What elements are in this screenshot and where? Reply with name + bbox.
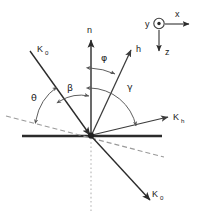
transmitted-wavevector-arrow [92,137,150,200]
label-angle-gamma: γ [127,81,133,92]
coordinate-inset [154,18,189,51]
label-incident-wavevector-subscript: 0 [45,49,49,56]
label-angle-phi: φ [101,52,107,63]
label-angle-theta: θ [31,92,37,103]
diffraction-geometry-figure: n K 0 K 0 K h h θ β φ γ x y z [0,0,202,218]
angle-arc-gamma [90,88,136,126]
label-x-axis: x [175,9,180,19]
origin-point [88,132,94,138]
angle-arc-phi [90,68,115,74]
label-incident-wavevector: K [37,44,43,54]
angle-arc-theta [36,87,57,120]
label-transmitted-wavevector-subscript: 0 [160,194,164,201]
label-transmitted-wavevector: K [152,189,158,199]
label-reciprocal-lattice-vector: h [136,44,141,54]
diagram-canvas: n K 0 K 0 K h h θ β φ γ x y z [0,0,202,218]
label-angle-beta: β [67,82,73,93]
diffracted-wavevector-arrow [92,117,168,135]
reciprocal-lattice-vector-arrow [92,50,131,134]
label-diffracted-wavevector: K [173,112,179,122]
incident-wavevector-arrow [30,51,90,135]
y-axis-out-of-page-dot [157,22,160,25]
label-y-axis: y [145,19,150,29]
label-diffracted-wavevector-subscript: h [181,117,185,124]
label-z-axis: z [165,47,170,57]
label-normal-vector: n [87,25,92,35]
